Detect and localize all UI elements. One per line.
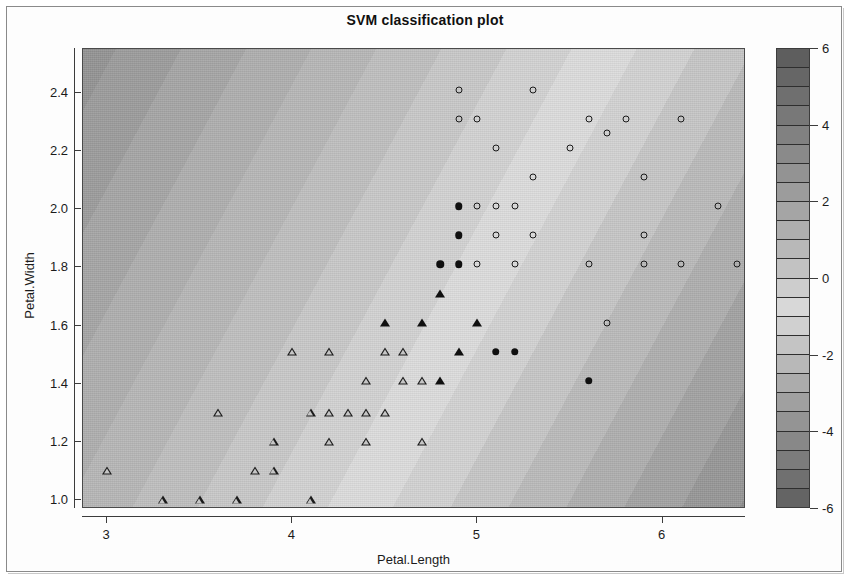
y-tick-label: 1.0 <box>28 492 68 507</box>
y-tick-label: 2.0 <box>28 201 68 216</box>
x-tick-label: 3 <box>102 527 109 542</box>
colorbar-band <box>777 164 809 183</box>
x-tick-mark <box>662 516 663 523</box>
colorbar-tick-label: 4 <box>822 117 829 132</box>
colorbar-band <box>777 202 809 221</box>
y-tick-mark <box>74 208 81 209</box>
colorbar-band <box>777 106 809 125</box>
colorbar-tick-mark <box>810 508 818 509</box>
colorbar-band <box>777 432 809 451</box>
decision-surface <box>82 48 745 508</box>
colorbar-band <box>777 279 809 298</box>
x-tick-mark <box>476 516 477 523</box>
x-axis-title: Petal.Length <box>82 552 745 567</box>
colorbar-band <box>777 259 809 278</box>
colorbar-band <box>777 393 809 412</box>
colorbar-tick-mark <box>810 355 818 356</box>
colorbar-band <box>777 336 809 355</box>
y-tick-label: 1.2 <box>28 434 68 449</box>
y-tick-mark <box>74 441 81 442</box>
colorbar-tick-label: -6 <box>822 501 834 516</box>
x-tick-mark <box>291 516 292 523</box>
colorbar-tick-label: 6 <box>822 41 829 56</box>
colorbar-tick-label: 0 <box>822 271 829 286</box>
x-tick-label: 5 <box>473 527 480 542</box>
colorbar-tick-mark <box>810 125 818 126</box>
colorbar-band <box>777 355 809 374</box>
plot-title: SVM classification plot <box>0 12 850 28</box>
colorbar-tick-mark <box>810 278 818 279</box>
y-tick-mark <box>74 499 81 500</box>
colorbar-band <box>777 68 809 87</box>
colorbar-band <box>777 489 809 507</box>
y-tick-mark <box>74 325 81 326</box>
decision-value-colorbar <box>776 48 810 508</box>
colorbar-band <box>777 412 809 431</box>
y-axis-line <box>74 48 75 508</box>
colorbar-band <box>777 298 809 317</box>
colorbar-band <box>777 240 809 259</box>
colorbar-tick-mark <box>810 431 818 432</box>
svm-classification-plot-screenshot: SVM classification plot 3456 1.01.21.41.… <box>0 0 850 583</box>
x-tick-label: 4 <box>288 527 295 542</box>
colorbar-band <box>777 221 809 240</box>
colorbar-tick-mark <box>810 201 818 202</box>
y-tick-mark <box>74 383 81 384</box>
y-axis-title: Petal.Width <box>22 216 37 356</box>
x-tick-label: 6 <box>658 527 665 542</box>
colorbar-tick-label: 2 <box>822 194 829 209</box>
colorbar-tick-label: -4 <box>822 424 834 439</box>
y-tick-mark <box>74 266 81 267</box>
y-tick-mark <box>74 92 81 93</box>
colorbar-band <box>777 470 809 489</box>
colorbar-band <box>777 126 809 145</box>
y-tick-mark <box>74 150 81 151</box>
y-tick-label: 2.2 <box>28 142 68 157</box>
colorbar-band <box>777 317 809 336</box>
colorbar-tick-label: -2 <box>822 347 834 362</box>
y-tick-label: 1.4 <box>28 375 68 390</box>
y-tick-label: 2.4 <box>28 84 68 99</box>
colorbar-band <box>777 145 809 164</box>
x-tick-mark <box>106 516 107 523</box>
colorbar-tick-mark <box>810 48 818 49</box>
colorbar-band <box>777 49 809 68</box>
colorbar-band <box>777 183 809 202</box>
plot-panel <box>82 48 745 508</box>
colorbar-band <box>777 451 809 470</box>
colorbar-band <box>777 374 809 393</box>
colorbar-band <box>777 87 809 106</box>
x-axis-line <box>82 516 745 517</box>
